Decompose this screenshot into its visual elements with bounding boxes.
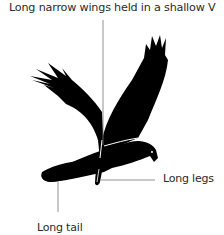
wings-label: Long narrow wings held in a shallow V [9,1,215,14]
bird-diagram [0,0,224,235]
left-wing-silhouette [30,63,104,160]
tail-silhouette [41,160,96,182]
tail-label: Long tail [37,221,82,234]
legs-silhouette [95,166,103,185]
eye-icon [151,151,153,153]
legs-label: Long legs [163,172,214,185]
